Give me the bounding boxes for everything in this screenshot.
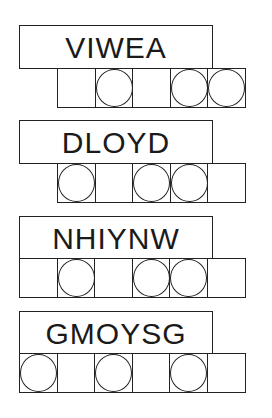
answer-cells [19,258,246,298]
cell-letter [58,259,95,297]
cell-letter [171,164,208,202]
scrambled-word-box: NHIYNW [19,216,213,260]
answer-cell-circled[interactable] [57,163,96,203]
answer-cell-circled[interactable] [95,68,134,108]
cell-letter [208,259,245,297]
answer-cell[interactable] [57,68,96,108]
cell-letter [170,259,207,297]
answer-cell-circled[interactable] [170,163,209,203]
answer-cell[interactable] [19,258,58,298]
cell-letter [58,164,95,202]
cell-letter [133,259,170,297]
answer-cells [19,353,246,393]
answer-cell[interactable] [57,353,96,393]
cell-letter [58,69,95,107]
answer-cell[interactable] [207,258,246,298]
cell-letter [20,259,57,297]
cell-letter [170,354,207,392]
cell-letter [133,164,170,202]
scrambled-word-box: DLOYD [19,120,213,164]
cell-letter [133,69,170,107]
cell-letter [96,69,133,107]
answer-cell-circled[interactable] [19,353,58,393]
answer-cell-circled[interactable] [207,68,246,108]
answer-cell-circled[interactable] [57,258,96,298]
scrambled-word: GMOYSG [45,319,186,349]
answer-cell-circled[interactable] [169,353,208,393]
scrambled-word: NHIYNW [52,224,180,254]
cell-letter [95,354,132,392]
answer-cell[interactable] [95,163,134,203]
scrambled-word-box: GMOYSG [19,311,213,355]
scrambled-word: DLOYD [62,128,170,158]
answer-cell-circled[interactable] [94,353,133,393]
cell-letter [133,354,170,392]
answer-cell[interactable] [132,353,171,393]
cell-letter [95,259,132,297]
answer-cells [57,68,246,108]
answer-cell[interactable] [207,163,246,203]
cell-letter [208,69,245,107]
cell-letter [208,354,245,392]
answer-cell[interactable] [132,68,171,108]
cell-letter [58,354,95,392]
scrambled-word-box: VIWEA [19,25,213,69]
cell-letter [208,164,245,202]
answer-cell-circled[interactable] [170,68,209,108]
cell-letter [171,69,208,107]
answer-cells [57,163,246,203]
cell-letter [20,354,57,392]
cell-letter [96,164,133,202]
answer-cell-circled[interactable] [132,163,171,203]
answer-cell-circled[interactable] [169,258,208,298]
answer-cell[interactable] [94,258,133,298]
answer-cell-circled[interactable] [132,258,171,298]
scrambled-word: VIWEA [65,33,167,63]
answer-cell[interactable] [207,353,246,393]
